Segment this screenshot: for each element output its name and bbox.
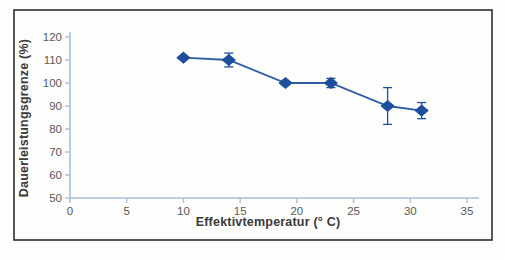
figure: 506070809010011012005101520253035 Effekt… bbox=[0, 0, 505, 259]
y-tick-label: 50 bbox=[49, 192, 62, 204]
y-tick-label: 100 bbox=[43, 77, 62, 89]
y-tick-label: 80 bbox=[49, 123, 62, 135]
y-tick-label: 90 bbox=[49, 100, 62, 112]
line-chart: 506070809010011012005101520253035 Effekt… bbox=[0, 0, 505, 259]
x-tick-label: 0 bbox=[67, 205, 73, 217]
y-axis-label: Dauerleistungsgrenze (%) bbox=[17, 39, 31, 197]
x-tick-label: 35 bbox=[461, 205, 474, 217]
x-tick-label: 25 bbox=[347, 205, 360, 217]
x-axis-label: Effektivtemperatur (° C) bbox=[196, 215, 341, 229]
y-tick-label: 60 bbox=[49, 169, 62, 181]
y-tick-label: 110 bbox=[44, 54, 62, 66]
y-tick-label: 120 bbox=[43, 31, 62, 43]
x-tick-label: 10 bbox=[177, 205, 190, 217]
x-tick-label: 30 bbox=[404, 205, 417, 217]
x-tick-label: 5 bbox=[124, 205, 130, 217]
y-tick-label: 70 bbox=[49, 146, 62, 158]
